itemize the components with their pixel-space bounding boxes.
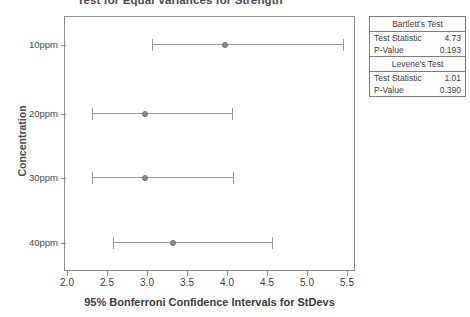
levene-p-value-value: 0.390 <box>440 85 461 95</box>
ci-lower-cap-40ppm <box>113 237 114 249</box>
x-tick-mark-4-5 <box>267 271 268 276</box>
bartlett-test-title: Bartlett's Test <box>370 17 465 32</box>
bartlett-test-statistic-label: Test Statistic <box>374 33 422 43</box>
x-tick-label-2-0: 2.0 <box>52 277 82 288</box>
x-tick-mark-3-5 <box>187 271 188 276</box>
levene-p-value-label: P-Value <box>374 85 404 95</box>
x-tick-label-3-0: 3.0 <box>132 277 162 288</box>
x-tick-mark-2-5 <box>107 271 108 276</box>
ci-point-20ppm <box>142 111 148 117</box>
levene-p-value-row: P-Value 0.390 <box>370 84 465 96</box>
ci-row-20ppm <box>0 107 470 121</box>
ci-line-30ppm <box>92 177 234 178</box>
levene-test-block: Levene's Test Test Statistic 1.01 P-Valu… <box>370 56 465 96</box>
ci-lower-cap-20ppm <box>92 108 93 120</box>
x-tick-label-2-5: 2.5 <box>92 277 122 288</box>
x-tick-mark-3-0 <box>147 271 148 276</box>
bartlett-p-value-value: 0.193 <box>440 45 461 55</box>
stats-panel: Bartlett's Test Test Statistic 4.73 P-Va… <box>369 16 466 97</box>
ci-row-30ppm <box>0 171 470 185</box>
ci-point-40ppm <box>170 240 176 246</box>
ci-point-10ppm <box>222 42 228 48</box>
x-tick-label-4-0: 4.0 <box>212 277 242 288</box>
x-tick-mark-5-0 <box>307 271 308 276</box>
ci-line-20ppm <box>92 113 232 114</box>
x-tick-mark-5-5 <box>347 271 348 276</box>
levene-test-statistic-label: Test Statistic <box>374 73 422 83</box>
bartlett-p-value-row: P-Value 0.193 <box>370 44 465 56</box>
x-axis-title: 95% Bonferroni Confidence Intervals for … <box>64 296 355 308</box>
x-tick-mark-4-0 <box>227 271 228 276</box>
ci-upper-cap-40ppm <box>272 237 273 249</box>
ci-upper-cap-30ppm <box>233 172 234 184</box>
x-tick-label-4-5: 4.5 <box>252 277 282 288</box>
x-tick-label-3-5: 3.5 <box>172 277 202 288</box>
ci-row-40ppm <box>0 236 470 250</box>
bartlett-test-statistic-row: Test Statistic 4.73 <box>370 32 465 44</box>
ci-line-40ppm <box>113 242 272 243</box>
bartlett-test-statistic-value: 4.73 <box>444 33 461 43</box>
bartlett-test-block: Bartlett's Test Test Statistic 4.73 P-Va… <box>370 17 465 56</box>
ci-upper-cap-10ppm <box>343 39 344 51</box>
x-tick-label-5-0: 5.0 <box>292 277 322 288</box>
x-tick-label-5-5: 5.5 <box>332 277 362 288</box>
test-for-equal-variances-chart: Test for Equal Variances for Strength Co… <box>0 0 470 317</box>
levene-test-statistic-row: Test Statistic 1.01 <box>370 72 465 84</box>
ci-upper-cap-20ppm <box>232 108 233 120</box>
ci-lower-cap-10ppm <box>152 39 153 51</box>
chart-title: Test for Equal Variances for Strength <box>0 0 360 6</box>
ci-line-10ppm <box>152 44 343 45</box>
levene-test-statistic-value: 1.01 <box>444 73 461 83</box>
ci-point-30ppm <box>142 175 148 181</box>
plot-area <box>64 16 355 271</box>
bartlett-p-value-label: P-Value <box>374 45 404 55</box>
x-tick-mark-2-0 <box>67 271 68 276</box>
ci-lower-cap-30ppm <box>92 172 93 184</box>
levene-test-title: Levene's Test <box>370 57 465 72</box>
